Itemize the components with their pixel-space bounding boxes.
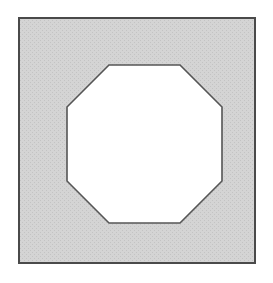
inner-octagon [67, 65, 222, 223]
figure-canvas: Octagonal aperture in a square plate A l… [0, 0, 273, 283]
octagon-figure-svg [0, 0, 273, 283]
